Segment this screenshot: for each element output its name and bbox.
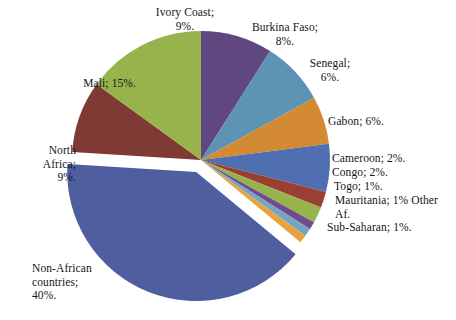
slice-label-cameroon: Cameroon; 2%. (332, 152, 454, 166)
slice-label-gabon: Gabon; 6%. (328, 115, 438, 129)
slice-label-non-african-countries: Non-African countries; 40%. (32, 262, 144, 303)
pie-chart: Ivory Coast; 9%. Burkina Faso; 8%. Seneg… (0, 0, 456, 320)
slice-label-mali: Mali; 15%. (26, 77, 136, 91)
slice-label-togo: Togo; 1%. (334, 180, 456, 194)
slice-label-mauritania: Mauritania; 1% Other Af. (335, 194, 456, 221)
slice-label-ivory-coast: Ivory Coast; 9%. (131, 6, 239, 33)
slice-label-burkina-faso: Burkina Faso; 8%. (232, 21, 338, 48)
slice-label-senegal: Senegal; 6%. (284, 57, 376, 84)
slice-label-other-sub-saharan: Sub-Saharan; 1%. (327, 221, 456, 235)
slice-label-north-africa: North Africa; 9%. (4, 144, 76, 185)
slice-label-congo: Congo; 2%. (332, 166, 454, 180)
